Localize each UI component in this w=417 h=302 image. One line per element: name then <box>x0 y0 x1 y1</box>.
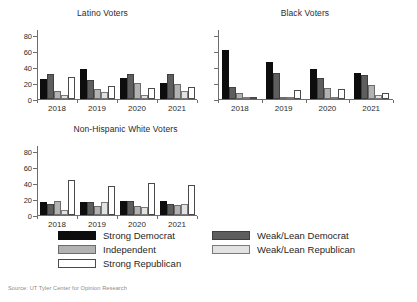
y-axis-tick-label: 0 <box>28 212 32 221</box>
y-axis-tick-label: 40 <box>24 64 32 73</box>
bar <box>280 97 287 99</box>
x-axis-tick <box>117 100 118 103</box>
x-axis-tick-label: 2018 <box>48 104 66 113</box>
bar <box>148 183 155 215</box>
bar <box>324 88 331 99</box>
x-axis-tick-label: 2019 <box>275 104 293 113</box>
x-axis-tick <box>37 216 38 219</box>
panel-black-voters: Black Voters 2018201920202021 <box>205 8 417 116</box>
bar <box>236 93 243 99</box>
bar <box>167 74 174 99</box>
bar <box>54 201 61 215</box>
bar-group-2020 <box>306 29 350 99</box>
x-axis-tick <box>262 100 263 103</box>
bar <box>134 83 141 99</box>
bar <box>181 204 188 215</box>
x-axis-tick-label: 2021 <box>168 104 186 113</box>
bar-group-2018 <box>218 29 262 99</box>
bar <box>181 91 188 99</box>
bar <box>120 201 127 215</box>
y-axis-tick-label: 60 <box>24 48 32 57</box>
bar <box>120 78 127 99</box>
x-axis-tick <box>197 216 198 219</box>
bar <box>68 77 75 99</box>
bar <box>338 89 345 99</box>
bar <box>294 90 301 99</box>
bar <box>141 95 148 99</box>
legend-label-weak-lean-republican: Weak/Lean Republican <box>257 244 355 255</box>
bar <box>266 62 273 99</box>
bar <box>101 92 108 99</box>
legend-label-weak-lean-democrat: Weak/Lean Democrat <box>257 230 349 241</box>
bar-group-2021 <box>157 29 197 99</box>
x-axis-tick <box>117 216 118 219</box>
legend-label-strong-republican: Strong Republican <box>103 258 181 269</box>
legend-entry-weak-lean-republican: Weak/Lean Republican <box>212 244 388 255</box>
x-axis-tick <box>157 216 158 219</box>
bar-group-2021 <box>349 29 393 99</box>
legend-entry-strong-republican: Strong Republican <box>58 258 212 269</box>
chart-legend: Strong Democrat Weak/Lean Democrat Indep… <box>58 228 388 270</box>
source-note: Source: UT Tyler Center for Opinion Rese… <box>8 285 127 291</box>
bar <box>331 97 338 99</box>
bar <box>160 201 167 215</box>
bar <box>375 95 382 99</box>
bar <box>287 97 294 99</box>
x-axis-tick <box>157 100 158 103</box>
y-axis-tick-label: 20 <box>24 80 32 89</box>
bar <box>94 206 101 215</box>
x-axis-tick-label: 2018 <box>231 104 249 113</box>
x-axis-tick <box>77 100 78 103</box>
y-axis-tick-label: 80 <box>24 148 32 157</box>
bar <box>61 210 68 215</box>
bar <box>87 80 94 99</box>
bar <box>174 205 181 215</box>
chart-title-black: Black Voters <box>199 8 411 18</box>
x-axis-tick <box>37 100 38 103</box>
bar <box>368 85 375 99</box>
bar <box>87 202 94 215</box>
bar-group-2021 <box>157 145 197 215</box>
bar-group-2019 <box>77 29 117 99</box>
bar <box>243 97 250 99</box>
plot-area-black: 2018201920202021 <box>218 30 393 100</box>
bar <box>174 84 181 99</box>
bar <box>141 207 148 215</box>
bar-group-2018 <box>37 145 77 215</box>
panel-nonhispanic-white-voters: Non-Hispanic White Voters 02040608020182… <box>0 124 215 232</box>
x-axis-tick <box>393 100 394 103</box>
bar <box>47 204 54 215</box>
y-axis-tick-label: 80 <box>24 32 32 41</box>
chart-title-latino: Latino Voters <box>0 8 205 18</box>
bar <box>47 74 54 99</box>
bar <box>160 83 167 99</box>
bar <box>361 75 368 99</box>
bar <box>222 50 229 99</box>
y-axis-tick-label: 20 <box>24 196 32 205</box>
legend-swatch-independent <box>58 245 96 254</box>
x-axis-tick <box>77 216 78 219</box>
legend-entry-weak-lean-democrat: Weak/Lean Democrat <box>212 230 388 241</box>
bar <box>127 201 134 215</box>
y-axis-tick-label: 0 <box>28 96 32 105</box>
x-axis-tick-label: 2019 <box>88 104 106 113</box>
bar <box>40 79 47 99</box>
y-axis-tick-label: 40 <box>24 180 32 189</box>
bar-group-2019 <box>77 145 117 215</box>
legend-label-strong-democrat: Strong Democrat <box>103 230 175 241</box>
legend-swatch-strong-republican <box>58 259 96 268</box>
x-axis-tick-label: 2021 <box>362 104 380 113</box>
x-axis-tick <box>218 100 219 103</box>
bar <box>68 180 75 215</box>
bar <box>310 69 317 99</box>
x-axis-tick <box>197 100 198 103</box>
legend-entry-independent: Independent <box>58 244 212 255</box>
x-axis-tick-label: 2020 <box>318 104 336 113</box>
bar-group-2020 <box>117 145 157 215</box>
bar <box>148 88 155 99</box>
legend-swatch-weak-lean-republican <box>212 245 250 254</box>
bar <box>108 86 115 99</box>
x-axis-tick <box>349 100 350 103</box>
x-axis-tick <box>306 100 307 103</box>
legend-entry-strong-democrat: Strong Democrat <box>58 230 212 241</box>
